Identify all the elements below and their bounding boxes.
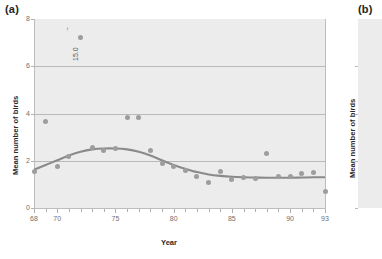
- data-point: [90, 145, 95, 150]
- data-point: [148, 148, 153, 153]
- panel-b-y-tick-mark-6: [355, 66, 358, 67]
- x-tick-mark-minor-84: [220, 209, 221, 212]
- y-tick-label-2: 2: [14, 157, 30, 164]
- x-tick-label-90: 90: [279, 215, 301, 222]
- data-point: [206, 180, 211, 185]
- data-point: [241, 175, 246, 180]
- x-tick-label-75: 75: [104, 215, 126, 222]
- y-tick-label-0: 0: [14, 204, 30, 211]
- panel-b-y-tick-mark-4: [355, 114, 358, 115]
- x-tick-mark-93: [325, 209, 326, 213]
- x-tick-mark-minor-87: [255, 209, 256, 212]
- x-tick-mark-minor-92: [313, 209, 314, 212]
- panel-a-x-axis-title: Year: [161, 238, 177, 247]
- x-tick-label-80: 80: [163, 215, 185, 222]
- y-tick-label-6: 6: [14, 62, 30, 69]
- x-tick-mark-minor-73: [92, 209, 93, 212]
- panel-b-plot-area: [358, 19, 382, 208]
- x-tick-label-70: 70: [46, 215, 68, 222]
- data-point: [101, 148, 106, 153]
- figure-root: (a) Mean number of birds 02468 687075808…: [0, 0, 382, 259]
- x-tick-label-85: 85: [221, 215, 243, 222]
- x-tick-mark-minor-81: [185, 209, 186, 212]
- y-tick-label-4: 4: [14, 110, 30, 117]
- panel-a-right-spine: [325, 19, 326, 209]
- x-tick-mark-minor-88: [267, 209, 268, 212]
- x-tick-mark-minor-89: [278, 209, 279, 212]
- panel-a-x-axis-line: [34, 208, 326, 209]
- x-tick-mark-90: [290, 209, 291, 213]
- panel-a-outlier-annotation: 15.0: [72, 47, 79, 61]
- x-tick-mark-minor-82: [197, 209, 198, 212]
- x-tick-mark-85: [232, 209, 233, 213]
- x-tick-mark-minor-71: [69, 209, 70, 212]
- data-point: [55, 164, 60, 169]
- data-point: [32, 169, 37, 174]
- x-tick-label-68: 68: [23, 215, 45, 222]
- x-tick-mark-minor-86: [244, 209, 245, 212]
- data-point: [125, 115, 130, 120]
- data-point: [160, 161, 165, 166]
- panel-b-y-axis-title: Mean number of birds: [348, 99, 357, 178]
- panel-a-outlier-arrow-icon: ↑: [66, 26, 69, 32]
- data-point: [253, 176, 258, 181]
- x-tick-mark-75: [115, 209, 116, 213]
- x-tick-mark-minor-83: [209, 209, 210, 212]
- x-tick-mark-minor-72: [81, 209, 82, 212]
- x-tick-mark-70: [57, 209, 58, 213]
- data-point: [311, 170, 316, 175]
- y-tick-label-8: 8: [14, 15, 30, 22]
- x-tick-mark-80: [174, 209, 175, 213]
- panel-b: (b) Mean number of birds: [340, 0, 382, 259]
- x-tick-mark-minor-78: [150, 209, 151, 212]
- x-tick-mark-minor-76: [127, 209, 128, 212]
- panel-a-tag: (a): [5, 3, 19, 15]
- panel-b-y-tick-mark-2: [355, 161, 358, 162]
- x-tick-mark-minor-69: [46, 209, 47, 212]
- x-tick-mark-minor-77: [139, 209, 140, 212]
- data-point: [218, 169, 223, 174]
- x-tick-label-93: 93: [314, 215, 336, 222]
- x-tick-mark-minor-91: [302, 209, 303, 212]
- data-point: [288, 174, 293, 179]
- panel-b-tag: (b): [358, 3, 373, 15]
- panel-b-y-tick-mark-0: [355, 208, 358, 209]
- panel-a: (a) Mean number of birds 02468 687075808…: [0, 0, 340, 259]
- data-point: [323, 189, 328, 194]
- x-tick-mark-minor-79: [162, 209, 163, 212]
- data-point: [183, 168, 188, 173]
- data-point: [276, 174, 281, 179]
- x-tick-mark-68: [34, 209, 35, 213]
- data-point: [136, 115, 141, 120]
- x-tick-mark-minor-74: [104, 209, 105, 212]
